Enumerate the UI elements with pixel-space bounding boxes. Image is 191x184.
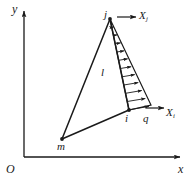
distributed-load-group bbox=[110, 19, 151, 110]
figure-canvas: y x O j i m q l Xj Xi bbox=[0, 0, 191, 184]
displacement-label-xj: Xj bbox=[139, 10, 148, 22]
node-label-m: m bbox=[57, 141, 65, 152]
displacement-arrows bbox=[117, 17, 164, 108]
displacement-subscript-xi: i bbox=[173, 112, 175, 119]
x-axis-label: x bbox=[178, 163, 183, 175]
load-arrows bbox=[112, 27, 149, 110]
displacement-label-xi: Xi bbox=[166, 107, 175, 119]
load-envelope bbox=[110, 19, 151, 110]
load-intensity-label: q bbox=[143, 113, 149, 124]
y-axis-label: y bbox=[12, 3, 17, 15]
diagram-svg bbox=[0, 0, 191, 184]
node-markers bbox=[60, 17, 131, 141]
node-label-i: i bbox=[125, 113, 128, 124]
axis-group bbox=[24, 11, 180, 157]
displacement-subscript-xj: j bbox=[146, 15, 148, 22]
node-label-j: j bbox=[104, 9, 107, 20]
displacement-symbol-xj: X bbox=[139, 9, 146, 21]
origin-label: O bbox=[6, 163, 15, 175]
displacement-symbol-xi: X bbox=[166, 106, 173, 118]
edge-length-label: l bbox=[101, 67, 104, 78]
